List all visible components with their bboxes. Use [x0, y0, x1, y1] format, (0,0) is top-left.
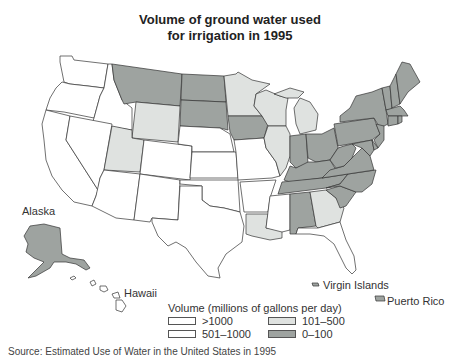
state-south-dakota	[180, 100, 228, 130]
legend-label: 0–100	[302, 328, 333, 340]
label-virgin-islands: Virgin Islands	[323, 279, 389, 291]
legend-swatch	[168, 317, 196, 325]
state-wyoming	[132, 102, 180, 142]
label-alaska: Alaska	[22, 205, 55, 217]
state-new-mexico	[134, 174, 180, 222]
state-maine	[396, 62, 420, 104]
legend-item-gt1000: >1000	[168, 315, 233, 327]
legend-swatch	[168, 330, 196, 338]
territory-puerto-rico	[375, 296, 385, 301]
legend-label: 501–1000	[202, 328, 251, 340]
source-note: Source: Estimated Use of Water in the Un…	[8, 346, 276, 357]
label-hawaii: Hawaii	[124, 287, 157, 299]
label-puerto-rico: Puerto Rico	[387, 295, 444, 307]
legend-label: >1000	[202, 315, 233, 327]
state-florida	[296, 222, 356, 274]
legend-item-101-500: 101–500	[268, 315, 345, 327]
state-alaska	[24, 224, 90, 278]
state-iowa	[228, 116, 268, 140]
legend-title: Volume (millions of gallons per day)	[168, 302, 342, 314]
state-colorado	[140, 140, 192, 180]
legend-swatch	[268, 317, 296, 325]
legend-swatch	[268, 330, 296, 338]
state-kansas	[190, 152, 238, 178]
state-montana	[112, 64, 182, 106]
state-north-dakota	[181, 74, 226, 102]
state-rhode-island	[398, 116, 402, 124]
state-hawaii	[70, 276, 126, 312]
state-connecticut	[388, 116, 398, 126]
state-mississippi	[266, 194, 290, 232]
state-indiana	[290, 134, 308, 168]
territory-virgin-islands	[312, 283, 319, 286]
legend-item-501-1000: 501–1000	[168, 328, 251, 340]
legend-label: 101–500	[302, 315, 345, 327]
legend-item-0-100: 0–100	[268, 328, 333, 340]
